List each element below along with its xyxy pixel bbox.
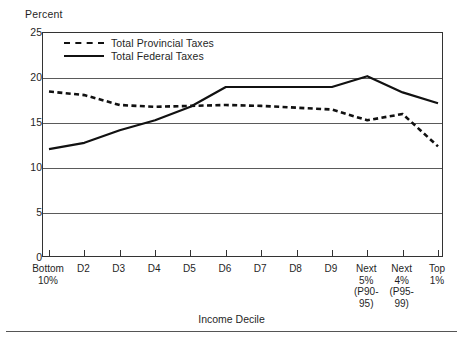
y-tick-label: 5 <box>8 206 42 218</box>
series-line-total-federal-taxes <box>49 76 438 149</box>
legend-item-federal: Total Federal Taxes <box>64 49 214 62</box>
legend-swatch-dashed-icon <box>64 38 104 48</box>
chart-figure: Percent 0510152025 Bottom 10%D2D3D4D5D6D… <box>0 0 463 341</box>
series-line-total-provincial-taxes <box>49 92 438 147</box>
legend-label-federal: Total Federal Taxes <box>111 50 204 62</box>
series-lines <box>43 33 444 258</box>
plot-area <box>42 32 443 257</box>
x-axis-title: Income Decile <box>0 313 463 325</box>
y-tick-label: 15 <box>8 116 42 128</box>
y-tick-label: 0 <box>8 251 42 263</box>
y-tick-label: 20 <box>8 71 42 83</box>
y-tick-label: 10 <box>8 161 42 173</box>
legend-label-provincial: Total Provincial Taxes <box>111 37 214 49</box>
legend-swatch-solid-icon <box>64 51 104 61</box>
y-tick-label: 25 <box>8 26 42 38</box>
footer-divider <box>6 331 457 332</box>
legend-item-provincial: Total Provincial Taxes <box>64 36 214 49</box>
chart-legend: Total Provincial Taxes Total Federal Tax… <box>64 36 214 62</box>
x-tick-label: Top 1% <box>415 263 459 286</box>
y-axis-tick-labels: 0510152025 <box>0 0 42 341</box>
